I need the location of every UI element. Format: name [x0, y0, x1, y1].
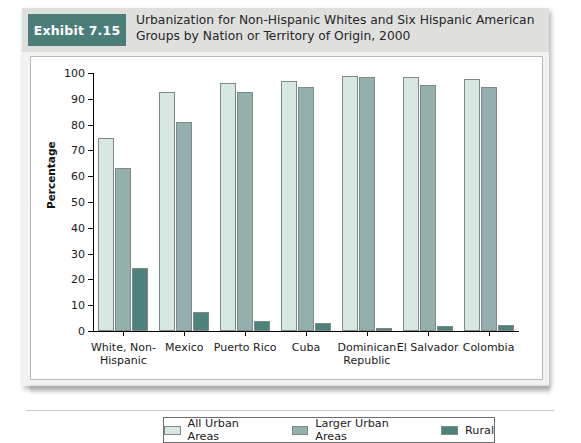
bar	[481, 87, 497, 331]
bar	[115, 168, 131, 331]
bar	[176, 122, 192, 331]
bar	[159, 92, 175, 331]
bar	[98, 138, 114, 332]
x-axis-labels: White, Non-HispanicMexicoPuerto RicoCuba…	[93, 335, 519, 375]
y-tick-label: 20	[55, 273, 85, 286]
x-tick-mark	[184, 331, 185, 336]
y-tick-label: 100	[55, 67, 85, 80]
legend-item: Larger Urban Areas	[292, 417, 421, 443]
legend-label: All Urban Areas	[188, 417, 272, 443]
bar-group	[220, 73, 270, 331]
exhibit-card: Exhibit 7.15 Urbanization for Non-Hispan…	[22, 8, 549, 386]
y-tick-label: 70	[55, 144, 85, 157]
bar	[237, 92, 253, 331]
bar	[464, 79, 480, 331]
bar-group	[342, 73, 392, 331]
page-bottom-rule	[26, 410, 554, 411]
bar	[359, 77, 375, 331]
y-tick-label: 50	[55, 196, 85, 209]
legend-label: Larger Urban Areas	[315, 417, 421, 443]
bar-group	[98, 73, 148, 331]
bar-group	[464, 73, 514, 331]
x-tick-mark	[123, 331, 124, 336]
x-tick-mark	[245, 331, 246, 336]
bar	[298, 87, 314, 331]
y-axis-labels: 0102030405060708090100	[31, 57, 93, 349]
legend-swatch	[292, 426, 309, 435]
exhibit-header: Exhibit 7.15 Urbanization for Non-Hispan…	[22, 8, 549, 52]
legend-label: Rural	[465, 424, 494, 437]
exhibit-title: Urbanization for Non-Hispanic Whites and…	[136, 13, 536, 44]
bar	[376, 328, 392, 331]
bar	[498, 325, 514, 331]
x-tick-label-line: Colombia	[446, 341, 531, 354]
bar	[403, 77, 419, 331]
x-tick-label-line: Republic	[324, 354, 409, 367]
x-tick-mark	[306, 331, 307, 336]
chart-legend: All Urban AreasLarger Urban AreasRural	[163, 417, 495, 443]
bar	[342, 76, 358, 331]
bar	[193, 312, 209, 331]
y-tick-label: 10	[55, 299, 85, 312]
y-tick-label: 30	[55, 247, 85, 260]
bar	[281, 81, 297, 331]
bar	[420, 85, 436, 331]
x-tick-mark	[489, 331, 490, 336]
exhibit-number-badge: Exhibit 7.15	[28, 14, 126, 46]
card-shadow	[30, 386, 550, 395]
chart-panel: Percentage 0102030405060708090100 White,…	[30, 56, 543, 380]
y-tick-label: 0	[55, 325, 85, 338]
bar	[254, 321, 270, 331]
legend-swatch	[164, 426, 181, 435]
bar	[220, 83, 236, 331]
x-tick-label: Colombia	[446, 341, 531, 354]
legend-item: All Urban Areas	[164, 417, 272, 443]
bar	[132, 268, 148, 331]
y-tick-label: 60	[55, 170, 85, 183]
x-tick-mark	[428, 331, 429, 336]
bar	[315, 323, 331, 331]
y-tick-label: 40	[55, 221, 85, 234]
y-tick-label: 80	[55, 118, 85, 131]
x-tick-mark	[367, 331, 368, 336]
legend-swatch	[441, 426, 458, 435]
x-tick-label-line: Hispanic	[81, 354, 166, 367]
bar-group	[281, 73, 331, 331]
bar-group	[403, 73, 453, 331]
bar-group	[159, 73, 209, 331]
y-tick-label: 90	[55, 92, 85, 105]
legend-item: Rural	[441, 424, 494, 437]
bar	[437, 326, 453, 331]
bar-groups	[93, 73, 519, 331]
